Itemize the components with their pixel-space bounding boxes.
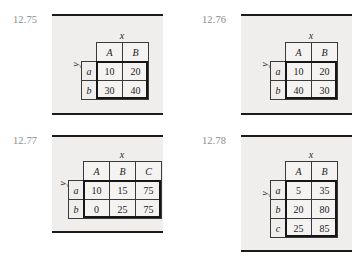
data-cell: 10 [286, 62, 312, 81]
column-header: A [84, 162, 110, 181]
column-header: A [286, 162, 312, 181]
data-cell: 20 [312, 62, 338, 81]
data-cell: 40 [286, 81, 312, 100]
exercise-panel: y x A B a [241, 135, 352, 252]
table-row: a 10 15 75 [69, 181, 162, 200]
table-row: a 5 35 [271, 181, 338, 200]
exercise-number: 12.76 [202, 14, 226, 25]
corner-spacer [69, 162, 84, 181]
x-axis-label: x [96, 29, 148, 42]
table-row: c 25 85 [271, 219, 338, 238]
x-axis-label: x [83, 148, 161, 161]
data-cell: 25 [110, 200, 136, 219]
row-header: a [82, 62, 97, 81]
table-row: b 20 80 [271, 200, 338, 219]
contingency-table-12-75: y x A B a [69, 29, 149, 100]
column-header: A [286, 43, 312, 62]
exercise-panel: y x A B a [241, 14, 352, 115]
table-header-row: A B [271, 43, 338, 62]
row-header: c [271, 219, 286, 238]
column-header: B [123, 43, 149, 62]
panel-rule-top [52, 14, 163, 16]
table-header-row: A B [271, 162, 338, 181]
table-grid-column: x A B a 5 35 [270, 148, 338, 238]
row-header: b [82, 81, 97, 100]
y-axis-label: y [69, 29, 81, 100]
column-header: B [110, 162, 136, 181]
contingency-table-12-76: y x A B a [258, 29, 338, 100]
corner-spacer [271, 162, 286, 181]
data-cell: 35 [312, 181, 338, 200]
panel-rule-bottom [241, 250, 352, 252]
exercise-sheet: 12.75 y x A B [0, 0, 360, 265]
panel-rule-bottom [52, 113, 163, 115]
column-header: C [136, 162, 162, 181]
y-axis-label: y [258, 148, 270, 238]
y-axis-label: y [56, 148, 68, 219]
data-cell: 25 [286, 219, 312, 238]
data-grid: A B a 10 20 b 40 30 [270, 42, 338, 100]
row-header: b [69, 200, 84, 219]
row-header: a [69, 181, 84, 200]
exercise-number: 12.75 [13, 14, 37, 25]
column-header: B [312, 162, 338, 181]
data-grid: A B a 5 35 b 20 80 [270, 161, 338, 238]
data-cell: 20 [123, 62, 149, 81]
data-cell: 30 [97, 81, 123, 100]
contingency-table-12-77: y x A B C [56, 148, 162, 219]
row-header: b [271, 81, 286, 100]
x-axis-label: x [285, 29, 337, 42]
exercise-number: 12.77 [13, 135, 37, 146]
row-header: b [271, 200, 286, 219]
exercise-12-77: 12.77 y x A B [13, 135, 163, 234]
table-row: b 0 25 75 [69, 200, 162, 219]
data-cell: 10 [84, 181, 110, 200]
data-cell: 80 [312, 200, 338, 219]
exercise-12-76: 12.76 y x A B [202, 14, 352, 116]
table-header-row: A B C [69, 162, 162, 181]
contingency-table-12-78: y x A B a [258, 148, 338, 238]
data-cell: 30 [312, 81, 338, 100]
data-grid: A B C a 10 15 75 b [68, 161, 162, 219]
panel-rule-top [52, 135, 163, 137]
table-header-row: A B [82, 43, 149, 62]
data-cell: 5 [286, 181, 312, 200]
table-row: b 40 30 [271, 81, 338, 100]
data-cell: 75 [136, 181, 162, 200]
exercise-12-75: 12.75 y x A B [13, 14, 163, 116]
y-axis-label: y [258, 29, 270, 100]
row-header: a [271, 181, 286, 200]
x-axis-label: x [285, 148, 337, 161]
data-cell: 85 [312, 219, 338, 238]
table-grid-column: x A B a 10 20 [270, 29, 338, 100]
panel-rule-bottom [52, 231, 163, 233]
table-row: a 10 20 [271, 62, 338, 81]
data-grid: A B a 10 20 b 30 40 [81, 42, 149, 100]
panel-rule-top [241, 135, 352, 137]
exercise-number: 12.78 [202, 135, 226, 146]
data-cell: 0 [84, 200, 110, 219]
table-row: b 30 40 [82, 81, 149, 100]
table-grid-column: x A B C a 10 [68, 148, 162, 219]
data-cell: 20 [286, 200, 312, 219]
data-cell: 10 [97, 62, 123, 81]
exercise-12-78: 12.78 y x A B [202, 135, 352, 253]
corner-spacer [82, 43, 97, 62]
table-row: a 10 20 [82, 62, 149, 81]
exercise-panel: y x A B a [52, 14, 163, 115]
table-grid-column: x A B a 10 20 [81, 29, 149, 100]
exercise-panel: y x A B C [52, 135, 163, 233]
panel-rule-bottom [241, 113, 352, 115]
column-header: A [97, 43, 123, 62]
panel-rule-top [241, 14, 352, 16]
data-cell: 40 [123, 81, 149, 100]
corner-spacer [271, 43, 286, 62]
data-cell: 15 [110, 181, 136, 200]
row-header: a [271, 62, 286, 81]
data-cell: 75 [136, 200, 162, 219]
column-header: B [312, 43, 338, 62]
